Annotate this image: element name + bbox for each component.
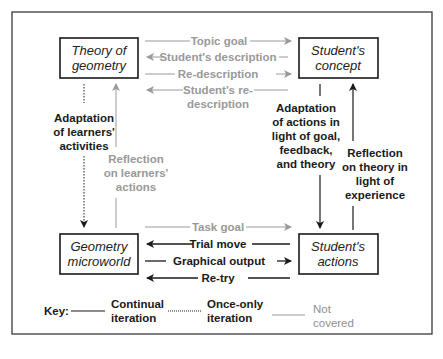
arrow-label: Task goal: [192, 221, 244, 233]
box-label-line: microworld: [68, 254, 132, 269]
vertical-label: of learners': [53, 126, 115, 138]
arrow-topic-goal: Topic goal: [145, 35, 291, 47]
arrow-reflection-learners: Reflection on learners' actions: [104, 84, 169, 228]
vertical-label: on theory in: [342, 161, 408, 173]
arrow-students-description: Student's description: [147, 51, 288, 63]
arrow-label: Re-try: [201, 272, 235, 284]
arrow-label: Graphical output: [173, 255, 265, 267]
box-theory-of-geometry: Theory of geometry: [60, 38, 138, 78]
vertical-label: Reflection: [108, 153, 164, 165]
vertical-label: Adaptation: [54, 112, 114, 124]
vertical-label: feedback,: [279, 144, 332, 156]
box-students-concept: Student's concept: [299, 38, 378, 78]
legend-label: Continual: [111, 298, 164, 310]
box-label-line: concept: [315, 58, 362, 73]
arrow-label: description: [187, 98, 249, 110]
arrow-task-goal: Task goal: [145, 221, 291, 233]
arrow-trial-move: Trial move: [147, 238, 290, 250]
arrow-adaptation-learners: Adaptation of learners' activities: [53, 84, 115, 227]
diagram-canvas: Theory of geometry Student's concept Geo…: [0, 0, 443, 359]
arrow-re-description: Re-description: [145, 68, 291, 80]
vertical-label: on learners': [104, 167, 169, 179]
arrow-graphical-output: Graphical output: [145, 255, 291, 267]
legend-label: Once-only: [207, 298, 264, 310]
legend-title: Key:: [44, 305, 69, 317]
arrow-label: Student's re-: [183, 84, 253, 96]
arrow-label: Topic goal: [191, 35, 248, 47]
vertical-label: activities: [59, 140, 108, 152]
vertical-label: Adaptation: [276, 102, 336, 114]
vertical-label: light of: [356, 175, 394, 187]
arrow-adaptation-actions: Adaptation of actions in light of goal, …: [272, 84, 340, 228]
vertical-label: of actions in: [272, 116, 340, 128]
legend-label: Not: [313, 303, 332, 315]
outer-frame: [12, 11, 211, 166]
vertical-label: and theory: [277, 158, 336, 170]
vertical-label: light of goal,: [272, 130, 340, 142]
box-geometry-microworld: Geometry microworld: [60, 234, 138, 274]
legend-label: covered: [313, 317, 354, 329]
arrow-students-re-description: Student's re- description: [147, 84, 288, 110]
legend-label: iteration: [111, 312, 156, 324]
box-label-line: Student's: [311, 239, 365, 254]
arrow-label: Student's description: [159, 51, 276, 63]
arrow-label: Trial move: [190, 238, 247, 250]
box-students-actions: Student's actions: [299, 234, 378, 274]
arrow-re-try: Re-try: [147, 272, 290, 284]
vertical-label: experience: [345, 189, 405, 201]
box-label-line: geometry: [72, 58, 128, 73]
arrow-reflection-theory: Reflection on theory in light of experie…: [342, 84, 408, 230]
vertical-label: actions: [116, 181, 156, 193]
box-label-line: Student's: [311, 43, 365, 58]
box-label-line: Theory of: [72, 43, 128, 58]
box-label-line: Geometry: [70, 239, 129, 254]
arrow-label: Re-description: [178, 68, 259, 80]
box-label-line: actions: [317, 254, 359, 269]
vertical-label: Reflection: [347, 147, 403, 159]
legend: Key: Continual iteration Once-only itera…: [44, 298, 354, 329]
legend-label: iteration: [207, 312, 252, 324]
